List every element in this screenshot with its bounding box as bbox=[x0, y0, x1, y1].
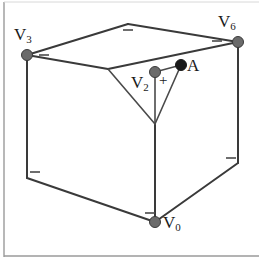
label-v6-base: V bbox=[218, 12, 230, 31]
edge-bend-to-v6 bbox=[108, 42, 238, 69]
label-v6-sub: 6 bbox=[230, 20, 236, 32]
figure-container: V3 V6 A V2 V0 + bbox=[0, 0, 260, 263]
label-a-base: A bbox=[187, 56, 199, 75]
label-v2: V2 bbox=[131, 74, 149, 91]
label-v3: V3 bbox=[14, 26, 32, 43]
vertex-dot-v6[interactable] bbox=[233, 37, 244, 48]
label-v0: V0 bbox=[163, 214, 181, 231]
cube-diagram-svg bbox=[0, 0, 260, 263]
plus-sign-v2: + bbox=[159, 73, 167, 88]
label-v6: V6 bbox=[218, 13, 236, 30]
edge-bottom-left bbox=[27, 178, 155, 222]
edge-v3-to-bend bbox=[27, 55, 108, 69]
label-v2-base: V bbox=[131, 73, 143, 92]
edge-v3-to-top-apex bbox=[27, 24, 128, 55]
label-v0-sub: 0 bbox=[175, 221, 181, 233]
vertex-dot-v3[interactable] bbox=[22, 50, 33, 61]
label-v3-base: V bbox=[14, 25, 26, 44]
vertex-dot-v0[interactable] bbox=[150, 217, 161, 228]
vertex-dot-a[interactable] bbox=[176, 60, 187, 71]
label-v3-sub: 3 bbox=[26, 33, 32, 45]
label-a: A bbox=[187, 57, 199, 74]
label-v2-sub: 2 bbox=[143, 81, 149, 93]
label-v0-base: V bbox=[163, 213, 175, 232]
